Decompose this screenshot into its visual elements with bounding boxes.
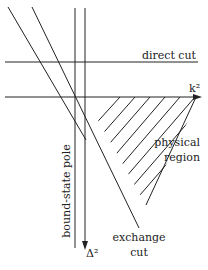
exchange-cut-label-2: cut: [130, 246, 148, 259]
physical-region-label-1: physical: [154, 136, 200, 149]
mandelstam-diagram: direct cut k² physical region bound-stat…: [0, 0, 208, 270]
exchange-cut-label-1: exchange: [112, 231, 165, 244]
physical-region-label-2: region: [164, 151, 200, 164]
bound-state-pole-label: bound-state pole: [60, 144, 73, 237]
direct-cut-label: direct cut: [142, 49, 197, 62]
k2-axis-label: k²: [189, 82, 200, 95]
delta2-axis-label: Δ²: [86, 247, 98, 260]
diagonal-line-left: [8, 7, 86, 140]
